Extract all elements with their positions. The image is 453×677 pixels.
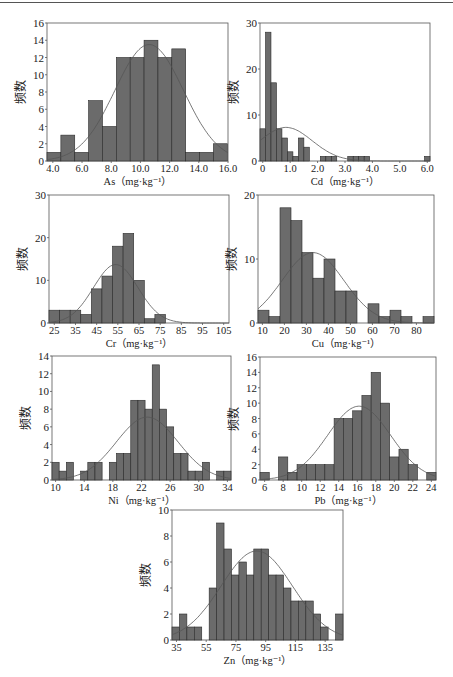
y-tick-label: 6 xyxy=(44,421,50,433)
histogram-bar xyxy=(306,465,315,480)
histogram-bar xyxy=(304,147,309,161)
y-tick-label: 0 xyxy=(164,634,170,646)
y-tick-label: 10 xyxy=(244,253,256,265)
histogram-bar xyxy=(313,614,320,640)
y-axis-label: 频数 xyxy=(13,80,28,104)
histogram-bar xyxy=(195,471,202,480)
x-axis-label: Pb（mg·kg⁻¹） xyxy=(314,495,381,506)
histogram-bar xyxy=(130,58,144,162)
x-tick-label: 12.0 xyxy=(160,163,178,174)
histogram-bar xyxy=(265,32,270,161)
histogram-bar xyxy=(134,280,145,323)
x-tick-label: 20 xyxy=(389,482,400,493)
histogram-bar xyxy=(324,259,335,323)
histogram-bar xyxy=(321,627,328,640)
y-tick-label: 8 xyxy=(44,403,50,415)
x-tick-label: 8 xyxy=(281,482,286,493)
histogram-bar xyxy=(291,601,298,640)
histogram-bar xyxy=(325,465,334,480)
histogram-bar xyxy=(343,419,352,481)
histogram-bar xyxy=(144,319,155,323)
x-tick-label: 10 xyxy=(257,325,268,336)
y-tick-label: 2 xyxy=(252,459,258,471)
x-tick-label: 10.0 xyxy=(131,163,149,174)
histogram-bar xyxy=(124,453,131,480)
x-tick-label: 55 xyxy=(201,642,212,653)
histogram-cu: 010201020304050607080Cu（mg·kg⁻¹）频数 xyxy=(224,189,434,349)
histogram-bar xyxy=(61,135,75,161)
x-tick-label: 95 xyxy=(260,642,271,653)
histogram-as: 02468101214164.06.08.010.012.014.016.0As… xyxy=(13,17,237,187)
y-tick-label: 0 xyxy=(44,474,50,486)
histogram-bar xyxy=(271,83,276,161)
x-tick-label: 105 xyxy=(216,325,232,336)
x-tick-label: 16.0 xyxy=(219,163,237,174)
x-tick-label: 14 xyxy=(79,482,90,493)
histogram-bar xyxy=(313,278,324,323)
x-tick-label: 16 xyxy=(352,482,363,493)
x-tick-label: 3.0 xyxy=(338,163,351,174)
histogram-bar xyxy=(331,156,336,161)
histogram-bar xyxy=(371,372,380,480)
y-axis-label: 频数 xyxy=(138,563,153,587)
histogram-bar xyxy=(231,575,238,640)
y-tick-label: 4 xyxy=(164,582,170,594)
histogram-bar xyxy=(334,419,343,481)
y-tick-label: 12 xyxy=(38,368,49,380)
histogram-bar xyxy=(152,365,159,480)
x-tick-label: 95 xyxy=(197,325,208,336)
x-tick-label: 10 xyxy=(50,482,61,493)
x-tick-label: 30 xyxy=(194,482,205,493)
histogram-bar xyxy=(158,58,172,162)
histogram-bar xyxy=(174,453,181,480)
histogram-bar xyxy=(261,549,268,640)
histogram-bar xyxy=(91,289,102,323)
x-tick-label: 12 xyxy=(315,482,326,493)
x-tick-label: 70 xyxy=(389,325,400,336)
histogram-bar xyxy=(187,627,194,640)
histogram-bar xyxy=(336,614,343,640)
histogram-figure: 02468101214164.06.08.010.012.014.016.0As… xyxy=(0,0,453,677)
histogram-bar xyxy=(159,409,166,480)
y-tick-label: 30 xyxy=(35,189,47,201)
x-tick-label: 85 xyxy=(176,325,187,336)
y-axis-label: 频数 xyxy=(15,247,30,271)
histogram-bar xyxy=(217,523,224,640)
histogram-ni: 0246810121410141822263034Ni（mg·kg⁻¹）频数 xyxy=(18,350,233,506)
histogram-bar xyxy=(246,575,253,640)
x-tick-label: 4.0 xyxy=(46,163,59,174)
histogram-bar xyxy=(269,575,276,640)
histogram-bar xyxy=(368,304,379,323)
x-tick-label: 135 xyxy=(317,642,333,653)
histogram-bar xyxy=(194,627,201,640)
y-tick-label: 12 xyxy=(33,52,44,64)
x-tick-label: 40 xyxy=(323,325,334,336)
histogram-bar xyxy=(423,317,434,323)
x-tick-label: 22 xyxy=(408,482,419,493)
histogram-bar xyxy=(224,549,231,640)
x-tick-label: 60 xyxy=(367,325,378,336)
x-tick-label: 14 xyxy=(333,482,344,493)
histogram-bar xyxy=(258,310,269,323)
x-axis-label: Cd（mg·kg⁻¹） xyxy=(311,176,379,187)
histogram-bar xyxy=(52,462,59,480)
histogram-cr: 01020302535455565758595105Cr（mg·kg⁻¹）频数 xyxy=(15,189,232,349)
y-tick-label: 16 xyxy=(246,351,258,363)
y-tick-label: 16 xyxy=(33,17,45,29)
y-tick-label: 0 xyxy=(39,155,45,167)
histogram-bar xyxy=(316,465,325,480)
histogram-bar xyxy=(224,471,231,480)
histogram-bar xyxy=(399,449,408,480)
x-tick-label: 35 xyxy=(70,325,81,336)
y-tick-label: 2 xyxy=(39,138,45,150)
histogram-bar xyxy=(179,614,186,640)
histogram-bar xyxy=(116,453,123,480)
histogram-bar xyxy=(260,129,265,161)
x-tick-label: 25 xyxy=(49,325,60,336)
y-tick-label: 2 xyxy=(44,456,50,468)
histogram-bar xyxy=(109,462,116,480)
histogram-bar xyxy=(75,152,89,161)
y-tick-label: 10 xyxy=(33,69,45,81)
y-tick-label: 10 xyxy=(35,274,47,286)
y-tick-label: 20 xyxy=(35,232,47,244)
